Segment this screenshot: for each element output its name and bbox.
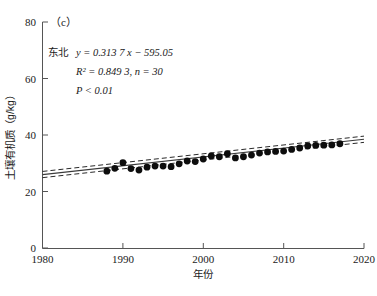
data-point [272, 148, 279, 155]
data-point [280, 148, 287, 155]
annotation-block: 东北 y = 0.313 7 x − 595.05 R² = 0.849 3, … [48, 46, 173, 96]
data-point [336, 140, 343, 147]
data-point [184, 158, 191, 165]
data-point [111, 165, 118, 172]
data-point [216, 153, 223, 160]
data-point [144, 164, 151, 171]
panel-label: （c） [50, 16, 77, 28]
confidence-band-upper [43, 136, 365, 171]
data-point [240, 153, 247, 160]
x-tick-labels-group: 1980 1990 2000 2010 2020 [32, 253, 376, 265]
data-point [160, 163, 167, 170]
data-point [256, 150, 263, 157]
x-axis-title: 年份 [193, 268, 214, 280]
data-points-group [103, 140, 343, 174]
y-tick-label: 20 [25, 186, 37, 198]
data-point [119, 159, 126, 166]
data-point [288, 146, 295, 153]
data-point [192, 158, 199, 165]
p-value-label: P < 0.01 [75, 85, 113, 96]
data-point [136, 167, 143, 174]
r-squared-label: R² = 0.849 3, n = 30 [75, 66, 163, 77]
y-tick-label: 40 [25, 129, 37, 141]
x-ticks-group [43, 243, 365, 249]
data-point [152, 163, 159, 170]
data-point [248, 152, 255, 159]
y-tick-label: 60 [25, 73, 37, 85]
data-point [208, 153, 215, 160]
region-label: 东北 [48, 46, 69, 58]
data-point [232, 154, 239, 161]
y-tick-labels-group: 0 20 40 60 80 [25, 16, 37, 254]
chart-figure: 0 20 40 60 80 1980 1990 2000 2010 2020 年… [0, 0, 377, 296]
data-point [320, 142, 327, 149]
x-tick-label: 1990 [112, 253, 135, 265]
scatter-plot-canvas: 0 20 40 60 80 1980 1990 2000 2010 2020 年… [0, 0, 377, 296]
y-axis-title: 土壤有机质（g/kg） [4, 90, 16, 180]
y-tick-label: 80 [25, 16, 37, 28]
data-point [264, 149, 271, 156]
data-point [176, 160, 183, 167]
data-point [328, 141, 335, 148]
data-point [304, 143, 311, 150]
data-point [312, 142, 319, 149]
data-point [224, 150, 231, 157]
regression-equation: y = 0.313 7 x − 595.05 [75, 47, 173, 58]
data-point [103, 168, 110, 175]
data-point [296, 145, 303, 152]
x-tick-label: 2010 [273, 253, 296, 265]
x-tick-label: 2020 [353, 253, 376, 265]
data-point [168, 163, 175, 170]
data-point [128, 165, 135, 172]
x-tick-label: 2000 [192, 253, 215, 265]
data-point [200, 156, 207, 163]
x-tick-label: 1980 [32, 253, 55, 265]
